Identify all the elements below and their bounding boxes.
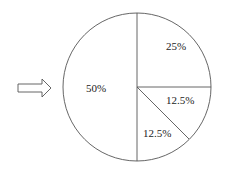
slice-label-12-5-right: 12.5% <box>166 94 194 106</box>
pie-chart: 50% 25% 12.5% 12.5% <box>0 0 226 170</box>
slice-label-12-5-bottom: 12.5% <box>143 127 171 139</box>
arrow-right-icon <box>18 79 51 97</box>
slice-label-50: 50% <box>86 82 106 94</box>
slice-label-25: 25% <box>166 40 186 52</box>
